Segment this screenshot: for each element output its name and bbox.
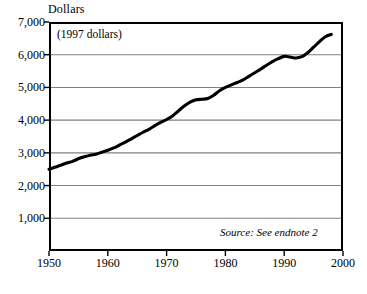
x-tick-label: 1990	[272, 256, 296, 271]
y-tick-label: 6,000	[1, 47, 45, 62]
x-tick-label: 2000	[331, 256, 355, 271]
y-tick-label: 3,000	[1, 145, 45, 160]
y-tick-label: 7,000	[1, 15, 45, 30]
x-tick-label: 1980	[213, 256, 237, 271]
x-axis-ticks	[49, 251, 343, 256]
chart-screenshot: Dollars (1997 dollars) Source: See endno…	[0, 0, 367, 294]
y-tick-label: 2,000	[1, 178, 45, 193]
plot-area-frame	[49, 22, 343, 251]
y-tick-label: 5,000	[1, 80, 45, 95]
x-tick-label: 1950	[37, 256, 61, 271]
y-tick-label: 4,000	[1, 113, 45, 128]
x-tick-label: 1960	[96, 256, 120, 271]
y-tick-label: 1,000	[1, 211, 45, 226]
x-tick-label: 1970	[155, 256, 179, 271]
